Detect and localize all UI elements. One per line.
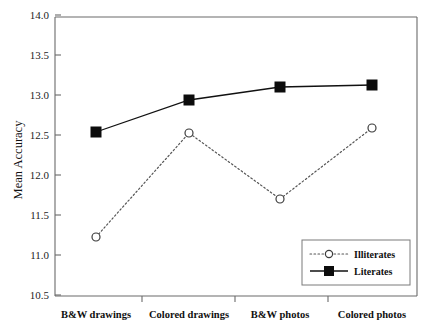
x-tick-label-bw-photos: B&W photos	[251, 309, 309, 320]
series-illiterates-line	[96, 128, 372, 237]
legend-label-literates: Literates	[354, 266, 392, 277]
data-point-literates-2	[275, 82, 285, 92]
y-axis-title: Mean Accuracy	[11, 120, 25, 200]
chart-legend: Illiterates Literates	[302, 240, 410, 285]
series-literates	[91, 80, 377, 137]
x-tick-marks	[142, 296, 328, 302]
data-point-illiterates-2	[276, 195, 284, 203]
chart-container: 14.0 13.5 13.0 12.5 12.0 11.5 11.0 10.5 …	[0, 0, 430, 328]
y-tick-label-11-0: 11.0	[30, 249, 49, 261]
data-point-literates-0	[91, 127, 101, 137]
data-point-literates-3	[367, 80, 377, 90]
data-point-illiterates-3	[368, 124, 376, 132]
y-tick-label-11-5: 11.5	[30, 209, 49, 221]
y-tick-label-12-5: 12.5	[30, 129, 50, 141]
legend-swatch-illiterates-marker	[325, 250, 332, 257]
series-illiterates	[92, 124, 376, 241]
y-tick-label-10-5: 10.5	[30, 289, 50, 301]
legend-swatch-literates-marker	[325, 267, 334, 276]
y-tick-marks	[55, 15, 61, 295]
legend-frame	[302, 240, 410, 285]
x-tick-label-bw-drawings: B&W drawings	[61, 309, 131, 320]
series-literates-line	[96, 85, 372, 132]
data-point-illiterates-0	[92, 233, 100, 241]
y-tick-label-12-0: 12.0	[30, 169, 50, 181]
y-tick-label-13-0: 13.0	[30, 89, 50, 101]
line-chart: 14.0 13.5 13.0 12.5 12.0 11.5 11.0 10.5 …	[0, 0, 430, 328]
legend-label-illiterates: Illiterates	[354, 249, 395, 260]
y-tick-label-14-0: 14.0	[30, 9, 50, 21]
data-point-literates-1	[184, 95, 194, 105]
x-tick-label-colored-drawings: Colored drawings	[149, 309, 229, 320]
data-point-illiterates-1	[185, 129, 193, 137]
x-tick-label-colored-photos: Colored photos	[338, 309, 406, 320]
y-tick-label-13-5: 13.5	[30, 49, 50, 61]
